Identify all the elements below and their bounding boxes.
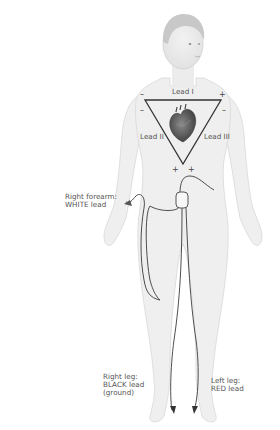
right-leg-label: Right leg: BLACK lead (ground) [103, 373, 144, 397]
electrode-hub [176, 192, 188, 208]
lead-1-negative-sign: – [140, 91, 144, 99]
left-leg-label: Left leg: RED lead [211, 377, 244, 393]
lead-3-positive-sign: + [188, 166, 195, 174]
right-forearm-label: Right forearm: WHITE lead [65, 193, 117, 209]
body-illustration [0, 0, 280, 430]
lead-2-positive-sign: + [172, 166, 179, 174]
lead-1-positive-sign: + [219, 91, 226, 99]
lead-3-negative-sign: – [222, 107, 226, 115]
lead-3-label: Lead III [204, 133, 230, 141]
left-leg-clip [192, 406, 198, 414]
lead-2-negative-sign: – [140, 107, 144, 115]
lead-1-label: Lead I [172, 88, 194, 96]
lead-2-label: Lead II [140, 133, 164, 141]
head [163, 14, 204, 69]
right-leg-clip [170, 406, 176, 414]
ecg-diagram: – + – – + + Lead I Lead II Lead III Righ… [0, 0, 280, 430]
